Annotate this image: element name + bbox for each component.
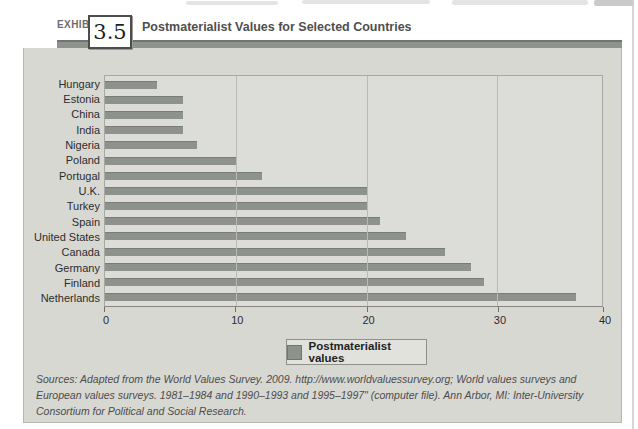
gridline — [497, 76, 498, 306]
country-label: Finland — [24, 277, 100, 289]
axis-tick — [235, 307, 236, 312]
axis-tick — [104, 307, 105, 312]
bar-row — [105, 157, 602, 165]
country-label: Portugal — [24, 170, 100, 182]
scan-artifact — [186, 1, 278, 5]
category-labels: HungaryEstoniaChinaIndiaNigeriaPolandPor… — [24, 75, 100, 307]
country-label: Canada — [24, 246, 100, 258]
country-label: Spain — [24, 216, 100, 228]
exhibit-number: 3.5 — [93, 20, 126, 44]
bar-rows — [105, 76, 602, 306]
axis-tick-label: 30 — [494, 314, 506, 326]
axis-tick-label: 20 — [363, 314, 375, 326]
legend-swatch-icon — [287, 345, 302, 360]
exhibit-figure: EXHIBIT 3.5 Postmaterialist Values for S… — [0, 0, 638, 429]
bar-row — [105, 96, 602, 104]
bar — [105, 293, 576, 301]
bar — [105, 111, 183, 119]
header-band — [57, 40, 622, 48]
sources-note: Sources: Adapted from the World Values S… — [36, 372, 603, 419]
country-label: Poland — [24, 154, 100, 166]
bar-row — [105, 111, 602, 119]
country-label: China — [24, 108, 100, 120]
bar-row — [105, 141, 602, 149]
axis-tick-label: 10 — [231, 314, 243, 326]
bar-chart-plot — [104, 75, 603, 307]
gridline — [236, 76, 237, 306]
country-label: Nigeria — [24, 139, 100, 151]
figure-panel: HungaryEstoniaChinaIndiaNigeriaPolandPor… — [23, 48, 622, 423]
bar-row — [105, 278, 602, 286]
scan-artifact — [594, 0, 634, 6]
axis-tick — [498, 307, 499, 312]
country-label: United States — [24, 231, 100, 243]
bar — [105, 172, 262, 180]
bar — [105, 232, 406, 240]
bar — [105, 96, 183, 104]
bar-row — [105, 293, 602, 301]
country-label: Estonia — [24, 93, 100, 105]
bar — [105, 141, 197, 149]
bar-row — [105, 202, 602, 210]
bar — [105, 157, 236, 165]
bar — [105, 126, 183, 134]
bar-row — [105, 172, 602, 180]
bar-row — [105, 81, 602, 89]
country-label: U.K. — [24, 185, 100, 197]
axis-tick — [367, 307, 368, 312]
country-label: India — [24, 124, 100, 136]
bar — [105, 248, 445, 256]
scan-artifact — [302, 0, 430, 4]
axis-tick — [603, 307, 604, 312]
page-edge-line — [632, 0, 634, 429]
bar-row — [105, 217, 602, 225]
bar-row — [105, 232, 602, 240]
axis-tick-label: 0 — [103, 314, 109, 326]
bar-row — [105, 263, 602, 271]
gridline — [367, 76, 368, 306]
country-label: Germany — [24, 262, 100, 274]
bar-row — [105, 126, 602, 134]
country-label: Hungary — [24, 78, 100, 90]
bar — [105, 81, 157, 89]
scan-artifact — [452, 0, 588, 5]
legend-label: Postmaterialist values — [309, 340, 426, 364]
exhibit-number-box: 3.5 — [88, 15, 132, 49]
bar-row — [105, 248, 602, 256]
bar — [105, 263, 471, 271]
bar — [105, 278, 484, 286]
chart-legend: Postmaterialist values — [286, 339, 427, 365]
figure-title: Postmaterialist Values for Selected Coun… — [142, 20, 412, 34]
bar — [105, 217, 380, 225]
country-label: Turkey — [24, 200, 100, 212]
bar-row — [105, 187, 602, 195]
axis-tick-label: 40 — [599, 314, 611, 326]
country-label: Netherlands — [24, 292, 100, 304]
